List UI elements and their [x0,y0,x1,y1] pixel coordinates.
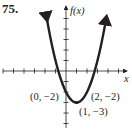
point-label-0-neg2: (0, −2) [30,91,59,103]
y-axis [64,6,69,128]
vertex-label: (1, −3) [79,106,108,118]
x-axis-label: x [123,73,129,84]
point-label-2-neg2: (2, −2) [91,91,120,103]
parabola-graph: f(x) x (0, −2) (2, −2) (1, −3) [0,0,132,129]
parabola-curve [47,18,106,102]
x-axis [3,69,127,74]
vertex-point [75,101,78,104]
y-axis-label: f(x) [70,5,85,17]
